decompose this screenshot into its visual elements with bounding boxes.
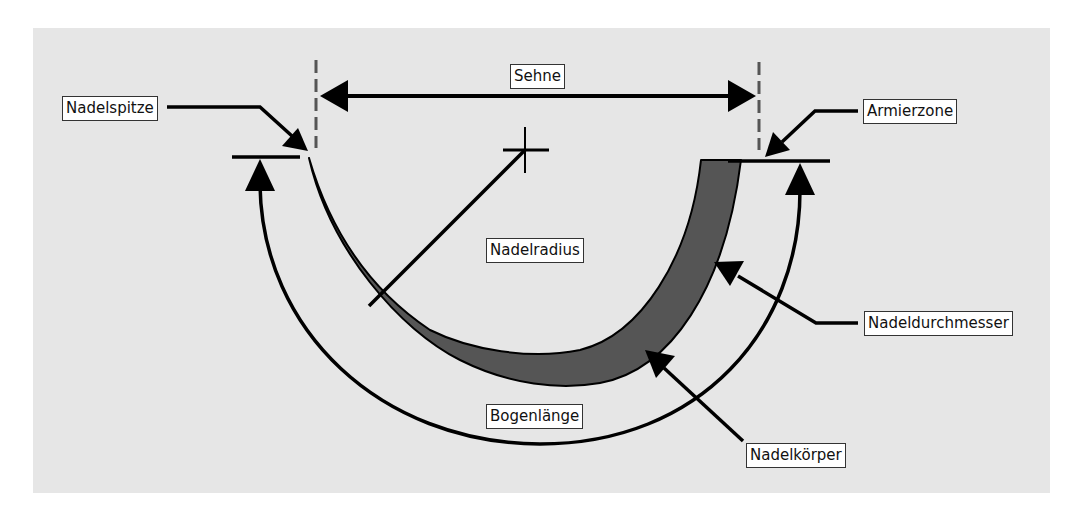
nadelspitze-pointer — [167, 107, 308, 151]
label-nadeldurchmesser: Nadeldurchmesser — [864, 311, 1013, 336]
label-nadelkoerper: Nadelkörper — [746, 443, 846, 468]
label-bogenlaenge: Bogenlänge — [486, 404, 583, 429]
needle-body-shape — [309, 158, 741, 386]
armierzone-pointer — [765, 111, 858, 157]
label-armierzone: Armierzone — [863, 99, 957, 124]
radius-line — [369, 150, 525, 306]
nadelkoerper-pointer — [645, 350, 743, 441]
needle-diagram: Sehne Nadelspitze Armierzone Nadelradius… — [0, 0, 1082, 520]
label-nadelspitze: Nadelspitze — [62, 96, 158, 121]
nadeldurchmesser-pointer — [714, 261, 858, 323]
label-sehne: Sehne — [510, 64, 565, 89]
label-nadelradius: Nadelradius — [486, 238, 584, 263]
